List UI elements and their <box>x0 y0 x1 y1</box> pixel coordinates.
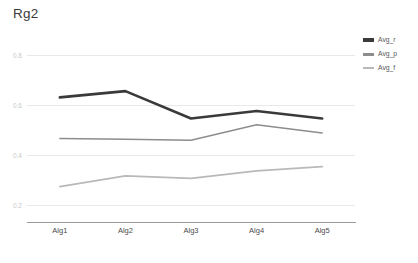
series-line-avg_f <box>60 167 322 187</box>
chart-container: Rg2 0.80.60.40.2 Alg1Alg2Alg3Alg4Alg5 Av… <box>0 0 418 263</box>
legend-label: Avg_p <box>378 51 397 58</box>
legend-swatch-icon <box>363 38 374 42</box>
series-lines <box>27 40 355 222</box>
chart-legend: Avg_rAvg_pAvg_f <box>363 33 418 75</box>
y-axis-tick-label: 0.2 <box>13 201 22 208</box>
x-axis-tick-label: Alg1 <box>52 226 67 235</box>
legend-swatch-icon <box>363 67 374 70</box>
x-axis-tick-labels: Alg1Alg2Alg3Alg4Alg5 <box>27 226 355 244</box>
x-axis-tick-label: Alg3 <box>183 226 198 235</box>
y-axis-tick-labels: 0.80.60.40.2 <box>0 40 22 222</box>
y-axis-tick-label: 0.4 <box>13 151 22 158</box>
chart-title: Rg2 <box>13 6 38 21</box>
y-axis-tick-label: 0.8 <box>13 51 22 58</box>
legend-swatch-icon <box>363 53 374 56</box>
x-axis-line <box>27 222 356 223</box>
series-line-avg_r <box>60 91 322 118</box>
x-axis-tick-label: Alg2 <box>118 226 133 235</box>
y-axis-tick-label: 0.6 <box>13 101 22 108</box>
legend-item-avg_f[interactable]: Avg_f <box>363 61 418 75</box>
series-line-avg_p <box>60 125 322 140</box>
plot-area <box>27 40 355 222</box>
legend-label: Avg_r <box>378 37 396 44</box>
legend-item-avg_p[interactable]: Avg_p <box>363 47 418 61</box>
legend-item-avg_r[interactable]: Avg_r <box>363 33 418 47</box>
x-axis-tick-label: Alg5 <box>315 226 330 235</box>
legend-label: Avg_f <box>378 65 395 72</box>
x-axis-tick-label: Alg4 <box>249 226 264 235</box>
